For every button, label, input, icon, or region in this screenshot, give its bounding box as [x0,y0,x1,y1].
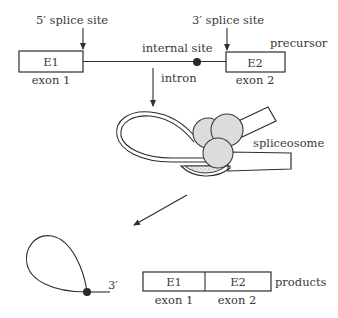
snrnp-arm-lower [228,152,291,171]
product-exon2-box-label: E2 [230,275,246,289]
five-prime-splice-site-label: 5′ splice site [36,13,108,27]
lariat-group: 3′ [26,236,118,296]
lariat-loop [26,236,87,292]
products-group: E1 E2 exon 1 exon 2 products [143,272,327,307]
products-arrow-icon [134,195,187,225]
splicing-diagram: 5′ splice site 3′ splice site precursor … [0,0,338,318]
product-exon2-name: exon 2 [218,293,257,307]
product-exon1-name: exon 1 [155,293,194,307]
spliceosome-label: spliceosome [253,136,325,150]
precursor-label: precursor [270,36,328,50]
precursor-exon1-name: exon 1 [32,73,71,87]
internal-site-label: internal site [142,41,213,55]
products-label: products [275,275,327,289]
precursor-exon2-box-label: E2 [247,56,263,70]
snrnp-globule-bottom [203,138,233,168]
lariat-branch-dot [83,288,91,296]
three-prime-splice-site-label: 3′ splice site [192,13,264,27]
precursor-exon2-name: exon 2 [236,73,275,87]
product-exon1-box-label: E1 [166,275,182,289]
intron-label: intron [161,71,197,85]
lariat-3prime-label: 3′ [108,278,118,292]
product-box [143,272,271,291]
precursor-exon1-box-label: E1 [43,55,59,69]
spliceosome-group: spliceosome [117,107,325,176]
branch-point-dot [193,58,201,66]
precursor-group: 5′ splice site 3′ splice site precursor … [19,13,328,106]
